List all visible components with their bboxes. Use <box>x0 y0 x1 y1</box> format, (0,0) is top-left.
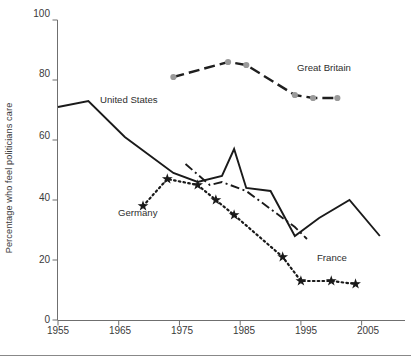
axes-group <box>53 20 406 326</box>
y-tick-label-20: 20 <box>24 254 50 265</box>
x-tick-label-1975: 1975 <box>162 325 202 336</box>
series-line-france <box>143 179 356 284</box>
plot-area <box>0 0 411 363</box>
series-label-france: France <box>317 252 347 263</box>
marker-great-britain <box>225 59 231 65</box>
x-tick-label-1955: 1955 <box>38 325 78 336</box>
chart-container: Percentage who feel politicians care 100… <box>0 0 411 363</box>
x-tick-label-2005: 2005 <box>348 325 388 336</box>
marker-great-britain <box>243 62 249 68</box>
marker-france <box>352 280 359 287</box>
series-line-united-states <box>58 101 380 236</box>
marker-great-britain <box>292 92 298 98</box>
x-tick-label-1985: 1985 <box>224 325 264 336</box>
series-label-great-britain: Great Britain <box>297 62 351 73</box>
x-tick-label-1995: 1995 <box>286 325 326 336</box>
y-tick-label-0: 0 <box>24 314 50 325</box>
marker-france <box>297 277 304 284</box>
x-tick-label-1965: 1965 <box>100 325 140 336</box>
series-line-germany <box>186 164 307 239</box>
marker-france <box>328 277 335 284</box>
y-tick-label-100: 100 <box>24 8 50 19</box>
series-label-germany: Germany <box>118 207 157 218</box>
marker-great-britain <box>310 95 316 101</box>
y-axis-label: Percentage who feel politicians care <box>4 78 14 278</box>
marker-great-britain <box>334 95 340 101</box>
y-tick-label-40: 40 <box>24 192 50 203</box>
y-tick-label-80: 80 <box>24 68 50 79</box>
marker-great-britain <box>170 74 176 80</box>
series-label-united-states: United States <box>100 94 158 105</box>
y-tick-label-60: 60 <box>24 130 50 141</box>
